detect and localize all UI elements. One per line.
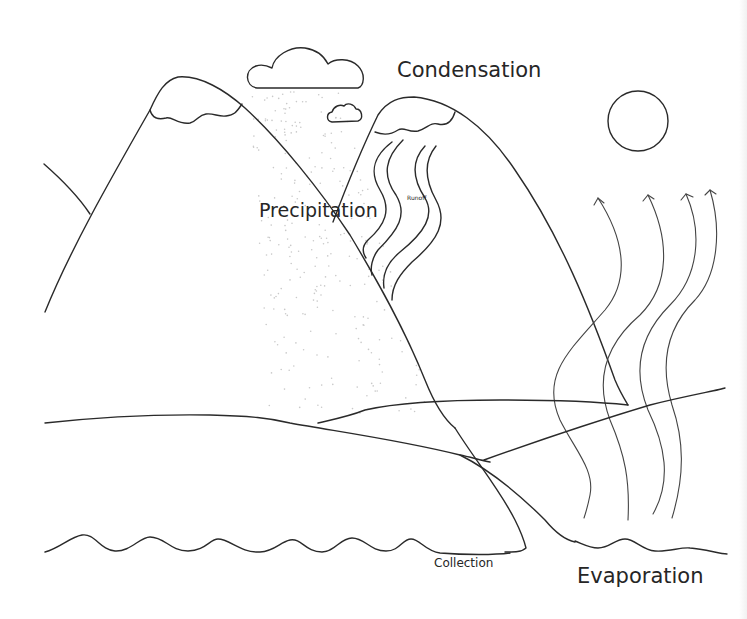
evaporation-arrows bbox=[554, 190, 717, 520]
page-edge-shadow bbox=[739, 0, 747, 619]
right-snowcap bbox=[375, 112, 455, 134]
sun-icon bbox=[608, 91, 668, 151]
evaporation-label: Evaporation bbox=[577, 564, 703, 588]
left-mountain bbox=[45, 77, 455, 428]
condensation-label: Condensation bbox=[397, 58, 541, 82]
left-snowcap bbox=[150, 104, 242, 123]
far-left-hill bbox=[44, 164, 90, 214]
rolling-hills bbox=[45, 388, 725, 552]
water-waves bbox=[45, 535, 727, 555]
precipitation-label: Precipitation bbox=[259, 199, 378, 221]
runoff-label: Runoff bbox=[407, 194, 427, 201]
collection-label: Collection bbox=[434, 556, 493, 570]
small-cloud bbox=[328, 104, 362, 122]
water-cycle-diagram: Condensation Precipitation Runoff Collec… bbox=[0, 0, 747, 619]
rain-cloud bbox=[247, 48, 363, 88]
